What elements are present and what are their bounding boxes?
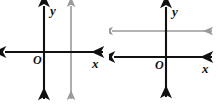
- coordinate-plane-vertical-line: O x y: [0, 0, 109, 104]
- coordinate-plane-horizontal-line: O x y: [109, 0, 218, 104]
- origin-label: O: [155, 58, 164, 72]
- x-axis-label: x: [201, 61, 209, 76]
- x-axis-label: x: [91, 56, 99, 71]
- y-axis-label: y: [170, 4, 178, 19]
- y-axis-label: y: [48, 3, 56, 18]
- diagram-canvas: O x y: [0, 0, 218, 104]
- origin-label: O: [33, 53, 42, 67]
